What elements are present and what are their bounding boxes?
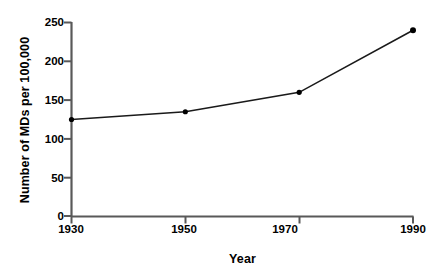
- data-point-1950: [183, 109, 188, 114]
- data-series-mds: [69, 27, 416, 122]
- line-chart: Number of MDs per 100,000 250 200 150 10…: [0, 0, 441, 279]
- x-axis: [71, 217, 414, 224]
- data-point-1930: [69, 117, 74, 122]
- plot-area: [0, 0, 441, 279]
- data-point-1970: [297, 90, 302, 95]
- data-point-1990: [410, 27, 416, 33]
